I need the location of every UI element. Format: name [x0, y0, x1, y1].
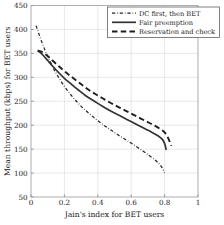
- y-tick-label: 50: [18, 193, 28, 202]
- x-tick-label: 0: [29, 198, 34, 207]
- x-tick-label: 0.4: [92, 198, 104, 207]
- line-chart: 00.20.40.60.81 5010015020025030035040045…: [0, 0, 224, 225]
- series-layer: [36, 26, 171, 173]
- chart-legend[interactable]: DC first, then BETFair preemptionReserva…: [108, 7, 220, 38]
- x-axis-title: Jain's index for BET users: [64, 210, 165, 219]
- y-tick-label: 350: [14, 49, 28, 58]
- y-axis-title: Mean throughput (kbps) for BET users: [3, 26, 12, 176]
- y-tick-label: 100: [14, 169, 28, 178]
- y-tick-label: 450: [14, 1, 28, 10]
- y-tick-label: 400: [14, 25, 28, 34]
- series-line-0: [36, 26, 165, 173]
- y-tick-labels: 50100150200250300350400450: [14, 1, 28, 202]
- y-tick-label: 150: [14, 145, 28, 154]
- legend-entry-label: DC first, then BET: [139, 10, 201, 18]
- y-tick-label: 200: [14, 121, 28, 130]
- x-tick-labels: 00.20.40.60.81: [29, 198, 201, 207]
- series-line-1: [38, 51, 167, 150]
- x-tick-label: 0.6: [125, 198, 137, 207]
- x-tick-label: 1: [196, 198, 201, 207]
- y-tick-label: 250: [14, 97, 28, 106]
- legend-entry-label: Reservation and check: [139, 28, 216, 36]
- y-tick-label: 300: [14, 73, 28, 82]
- chart-figure: 00.20.40.60.81 5010015020025030035040045…: [0, 0, 224, 225]
- legend-entry-label: Fair preemption: [139, 19, 194, 27]
- x-tick-label: 0.8: [159, 198, 171, 207]
- x-tick-label: 0.2: [59, 198, 70, 207]
